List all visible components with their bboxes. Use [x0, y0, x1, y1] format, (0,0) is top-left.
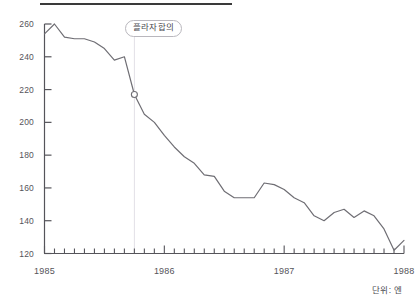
y-tick-label-120: 120: [8, 249, 34, 259]
chart-axes: [44, 24, 404, 254]
x-tick-label-1986: 1986: [141, 266, 187, 276]
x-tick-label-1985: 1985: [22, 266, 68, 276]
y-tick-label-260: 260: [8, 19, 34, 29]
x-tick-label-1988: 1988: [381, 266, 419, 276]
data-line-usdjpy: [45, 24, 405, 250]
x-tick-label-1987: 1987: [261, 266, 307, 276]
plaza-accord-marker: [131, 91, 137, 97]
y-tick-label-240: 240: [8, 52, 34, 62]
y-tick-label-160: 160: [8, 183, 34, 193]
y-tick-label-140: 140: [8, 216, 34, 226]
x-axis-ticks: [45, 246, 405, 254]
unit-note-label: 단위: 엔: [372, 283, 402, 295]
plaza-accord-annotation: 플라자합의: [125, 20, 182, 37]
y-tick-label-200: 200: [8, 117, 34, 127]
y-tick-label-220: 220: [8, 85, 34, 95]
y-axis-ticks: [45, 24, 52, 254]
y-tick-label-180: 180: [8, 150, 34, 160]
